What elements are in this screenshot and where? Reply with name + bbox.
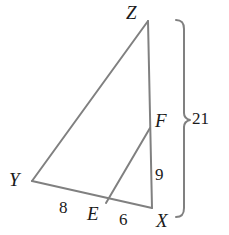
vertex-label-e: E: [87, 204, 99, 223]
measure-label-ex: 6: [119, 211, 128, 228]
segment-ZY: [32, 21, 148, 181]
segment-EF: [106, 128, 150, 203]
measure-label-zx: 21: [192, 110, 209, 127]
vertex-label-x: X: [156, 211, 168, 230]
segment-ZX: [148, 21, 152, 208]
measure-label-ye: 8: [59, 199, 68, 216]
vertex-label-y: Y: [9, 170, 20, 189]
measure-label-fx: 9: [155, 166, 164, 183]
measure-bracket-ZX: [176, 20, 190, 217]
geometry-figure: Z Y X E F 8 6 9 21: [0, 0, 229, 235]
vertex-label-z: Z: [126, 3, 137, 22]
vertex-label-f: F: [155, 111, 167, 130]
